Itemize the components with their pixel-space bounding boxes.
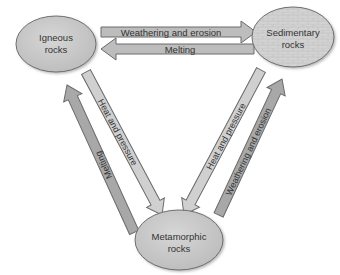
arrow-label: Melting [93, 150, 114, 181]
node-sedimentary-rocks: Sedimentary rocks [252, 7, 334, 67]
arrow-label: Melting [165, 44, 196, 55]
node-label-line1: Sedimentary [266, 27, 320, 38]
rock-cycle-diagram: Weathering and erosion Melting Melting H… [0, 0, 340, 275]
node-label-line2: rocks [282, 39, 305, 50]
node-label-line1: Metamorphic [152, 231, 207, 242]
arrow-weathering-igneous-to-sedimentary: Weathering and erosion [101, 21, 256, 43]
node-label-line2: rocks [45, 44, 68, 55]
arrow-label: Weathering and erosion [121, 27, 222, 38]
arrow-melting-sedimentary-to-igneous: Melting [101, 38, 254, 60]
node-label-line1: Igneous [39, 32, 73, 43]
node-metamorphic-rocks: Metamorphic rocks [135, 210, 223, 270]
node-igneous-rocks: Igneous rocks [16, 16, 96, 72]
node-label-line2: rocks [168, 243, 191, 254]
